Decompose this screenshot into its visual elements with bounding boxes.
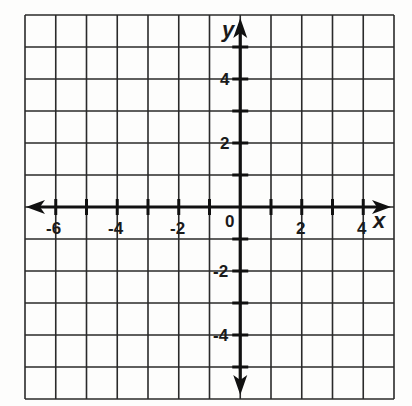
x-tick-labels: -6 -4 -2 2 4 bbox=[46, 219, 367, 238]
y-tick-label: 4 bbox=[220, 70, 230, 89]
y-tick-label: 2 bbox=[220, 134, 229, 153]
coordinate-plane: y x 0 -6 -4 -2 2 4 4 2 -2 -4 bbox=[0, 0, 412, 406]
x-tick-label: -2 bbox=[170, 219, 185, 238]
x-tick-label: -4 bbox=[108, 219, 124, 238]
x-tick-label: 2 bbox=[296, 219, 305, 238]
y-tick-label: -4 bbox=[213, 326, 229, 345]
y-tick-label: -2 bbox=[213, 262, 228, 281]
y-axis-label: y bbox=[221, 17, 236, 42]
x-tick-label: -6 bbox=[46, 219, 61, 238]
x-tick-label: 4 bbox=[357, 219, 367, 238]
origin-label: 0 bbox=[225, 212, 234, 231]
x-axis-label: x bbox=[372, 208, 386, 233]
